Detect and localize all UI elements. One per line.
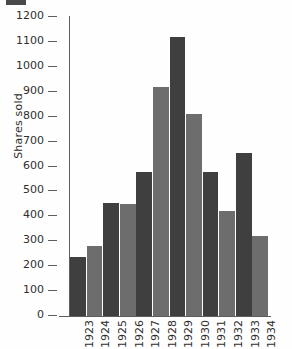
bar-1929 bbox=[170, 37, 186, 316]
y-tick-label: 300 bbox=[23, 233, 44, 246]
y-tick-label: 1200 bbox=[16, 9, 44, 22]
y-tick-label: 400 bbox=[23, 208, 44, 221]
x-tick-label-1927: 1927 bbox=[149, 320, 162, 348]
bar-1923 bbox=[70, 257, 86, 316]
chart-screenshot: Shares sold 0100200300400500600700800900… bbox=[0, 0, 292, 349]
x-tick-label-1923: 1923 bbox=[83, 320, 96, 348]
x-tick-label-1928: 1928 bbox=[166, 320, 179, 348]
y-tick-mark bbox=[48, 240, 57, 241]
x-axis-line bbox=[59, 316, 271, 317]
x-tick-label-1932: 1932 bbox=[232, 320, 245, 348]
x-tick-label-1934: 1934 bbox=[265, 320, 278, 348]
bar-1925 bbox=[103, 203, 119, 316]
x-tick-label-1933: 1933 bbox=[249, 320, 262, 348]
y-tick-mark bbox=[48, 315, 57, 316]
x-axis-ticks: 1923192419251926192719281929193019311932… bbox=[70, 318, 269, 349]
x-tick-label-1929: 1929 bbox=[182, 320, 195, 348]
bar-1933 bbox=[236, 153, 252, 316]
y-tick-mark bbox=[48, 41, 57, 42]
x-tick-label-1931: 1931 bbox=[215, 320, 228, 348]
bar-1927 bbox=[136, 172, 152, 316]
y-tick-mark bbox=[48, 265, 57, 266]
y-tick-mark bbox=[48, 91, 57, 92]
y-tick-mark bbox=[48, 16, 57, 17]
x-tick-label-1924: 1924 bbox=[99, 320, 112, 348]
x-tick-label-1926: 1926 bbox=[133, 320, 146, 348]
y-tick-mark bbox=[48, 116, 57, 117]
y-tick-label: 900 bbox=[23, 84, 44, 97]
x-tick-label-1930: 1930 bbox=[199, 320, 212, 348]
y-tick-mark bbox=[48, 290, 57, 291]
bar-series bbox=[70, 17, 269, 316]
bar-1930 bbox=[186, 114, 202, 316]
bar-1928 bbox=[153, 87, 169, 316]
y-tick-label: 1100 bbox=[16, 34, 44, 47]
y-tick-label: 500 bbox=[23, 183, 44, 196]
y-tick-mark bbox=[48, 166, 57, 167]
bar-1926 bbox=[120, 204, 136, 316]
y-tick-label: 200 bbox=[23, 258, 44, 271]
bar-1934 bbox=[252, 236, 268, 316]
x-tick-label-1925: 1925 bbox=[116, 320, 129, 348]
y-tick-mark bbox=[48, 190, 57, 191]
bar-1931 bbox=[203, 172, 219, 316]
y-tick-label: 700 bbox=[23, 134, 44, 147]
bar-1924 bbox=[87, 246, 103, 316]
y-tick-mark bbox=[48, 215, 57, 216]
y-tick-label: 600 bbox=[23, 159, 44, 172]
y-tick-mark bbox=[48, 66, 57, 67]
y-tick-label: 800 bbox=[23, 109, 44, 122]
bar-1932 bbox=[219, 211, 235, 316]
y-tick-label: 1000 bbox=[16, 59, 44, 72]
y-tick-label: 0 bbox=[37, 308, 44, 321]
bar-chart-figure: Shares sold 0100200300400500600700800900… bbox=[0, 0, 292, 349]
y-tick-mark bbox=[48, 141, 57, 142]
y-tick-label: 100 bbox=[23, 283, 44, 296]
